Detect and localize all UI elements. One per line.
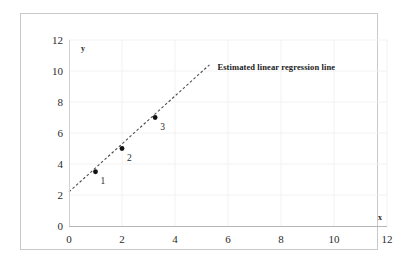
y-axis-line: [69, 40, 70, 226]
x-tick-label: 2: [119, 234, 125, 245]
data-point-label: 3: [160, 123, 165, 133]
y-tick-label: 10: [43, 66, 63, 77]
data-point-label: 2: [127, 154, 132, 164]
data-point: [93, 169, 98, 174]
chart-figure: 024681012 024681012 y x Estimated linear…: [0, 0, 400, 266]
x-tick-label: 10: [329, 234, 340, 245]
x-tick-label: 8: [278, 234, 284, 245]
y-tick-label: 4: [43, 159, 63, 170]
x-tick-label: 0: [66, 234, 72, 245]
y-axis-title: y: [81, 45, 85, 53]
x-axis-title: x: [378, 214, 382, 222]
chart-frame: 024681012 024681012 y x Estimated linear…: [20, 13, 378, 250]
data-point-label: 1: [101, 177, 106, 187]
y-tick-label: 12: [43, 35, 63, 46]
regression-line-annotation: Estimated linear regression line: [217, 63, 335, 72]
regression-line: [69, 65, 209, 192]
y-tick-label: 6: [43, 128, 63, 139]
data-point: [153, 115, 158, 120]
y-tick-label: 8: [43, 97, 63, 108]
x-tick-label: 4: [172, 234, 178, 245]
y-tick-label: 0: [43, 221, 63, 232]
data-point: [120, 146, 125, 151]
y-tick-label: 2: [43, 190, 63, 201]
x-axis-line: [69, 226, 387, 227]
x-tick-label: 12: [382, 234, 393, 245]
x-tick-label: 6: [225, 234, 231, 245]
